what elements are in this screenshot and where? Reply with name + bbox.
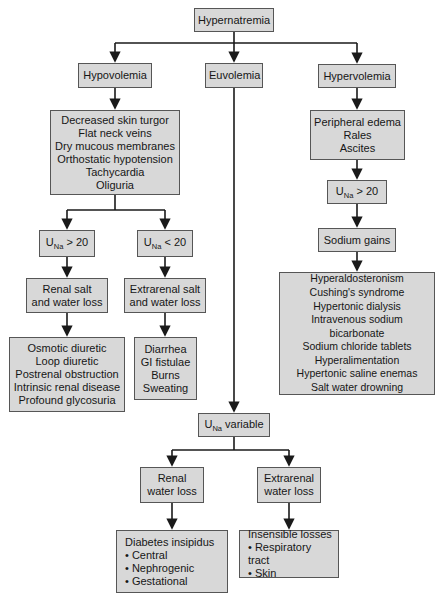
node-renal-water-causes: Diabetes insipidus• Central• Nephrogenic… [116, 530, 228, 593]
node-label: Hypovolemia [82, 69, 148, 82]
hypernatremia-flowchart: Hypernatremia Hypovolemia Euvolemia Hype… [0, 0, 446, 601]
node-extrarenal-water-loss: Extrarenalwater loss [257, 467, 321, 503]
node-sodium-gain-causes: HyperaldosteronismCushing's syndromeHype… [279, 272, 435, 395]
una-label: UNa > 20 [43, 236, 91, 251]
una-label: UNa > 20 [331, 185, 383, 200]
node-hypovolemia: Hypovolemia [78, 63, 152, 88]
node-extrarenal-water-causes: Insensible losses• Respiratory tract• Sk… [239, 530, 339, 578]
node-extrarenal-salt-causes: DiarrheaGI fistulaeBurnsSweating [134, 337, 197, 400]
node-hypovolemia-signs: Decreased skin turgorFlat neck veinsDry … [50, 110, 180, 195]
node-una-gt20-right: UNa > 20 [327, 180, 387, 204]
node-euvolemia: Euvolemia [205, 63, 263, 88]
node-renal-salt-causes: Osmotic diureticLoop diureticPostrenal o… [9, 337, 125, 412]
node-una-lt20: UNa < 20 [137, 230, 193, 257]
node-una-gt20-left: UNa > 20 [39, 230, 95, 257]
node-una-variable: UNa variable [198, 413, 270, 437]
node-label: Euvolemia [209, 69, 259, 82]
node-hypervolemia: Hypervolemia [318, 64, 396, 88]
node-hypernatremia: Hypernatremia [194, 8, 274, 32]
node-label: Hypervolemia [322, 70, 392, 83]
una-label: UNa variable [202, 418, 266, 433]
node-extrarenal-salt-loss: Extrarenal saltand water loss [124, 278, 206, 313]
node-sodium-gains: Sodium gains [318, 228, 396, 252]
node-label: Sodium gains [322, 234, 392, 247]
una-label: UNa < 20 [141, 236, 189, 251]
node-renal-water-loss: Renalwater loss [140, 467, 204, 503]
node-hypervolemia-signs: Peripheral edemaRalesAscites [310, 110, 405, 160]
node-label: Hypernatremia [198, 14, 270, 27]
node-renal-salt-loss: Renal saltand water loss [26, 278, 108, 313]
